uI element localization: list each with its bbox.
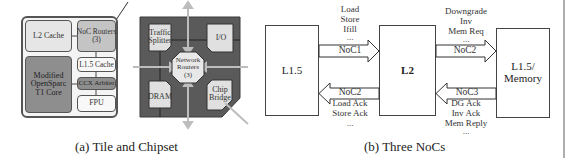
caption-b: (b) Three NoCs bbox=[364, 139, 445, 155]
noc3-msg-inv-ack: Inv Ack bbox=[433, 108, 499, 118]
noc2-upper-label: NoC2 bbox=[445, 45, 485, 55]
noc2-msg-downgrade: Downgrade bbox=[436, 6, 496, 16]
noc3-msg-ellipsis: ... bbox=[433, 128, 499, 134]
noc2-lower-label: NoC2 bbox=[330, 87, 370, 97]
noc3-messages: DG Ack Inv Ack Mem Reply ... bbox=[433, 98, 499, 134]
noc2-msg-store-ack: Store Ack bbox=[320, 108, 380, 118]
noc2-upper-msg-ellipsis: ... bbox=[436, 36, 496, 42]
noc2-msg-load-ack: Load Ack bbox=[320, 98, 380, 108]
noc1-label: NoC1 bbox=[330, 45, 370, 55]
noc2-msg-ellipsis: ... bbox=[320, 118, 380, 128]
noc3-label: NoC3 bbox=[447, 87, 487, 97]
noc1-msg-store: Store bbox=[325, 14, 375, 24]
noc2-upper-messages: Downgrade Inv Mem Req ... bbox=[436, 6, 496, 42]
noc1-msg-ellipsis: ... bbox=[325, 34, 375, 40]
noc1-messages: Load Store Ifill ... bbox=[325, 4, 375, 40]
noc2-lower-messages: Load Ack Store Ack ... bbox=[320, 98, 380, 128]
noc2-msg-inv: Inv bbox=[436, 16, 496, 26]
noc3-msg-dg-ack: DG Ack bbox=[433, 98, 499, 108]
noc1-msg-load: Load bbox=[325, 4, 375, 14]
